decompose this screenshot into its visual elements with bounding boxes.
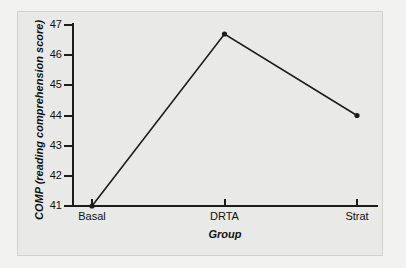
data-point (354, 113, 359, 118)
data-series-layer (0, 0, 406, 268)
data-point (222, 31, 227, 36)
data-point (89, 203, 94, 208)
series-markers-comp (89, 31, 359, 208)
figure-container: 41424344454647 BasalDRTAStrat COMP (read… (0, 0, 406, 268)
series-line-comp (92, 34, 357, 206)
